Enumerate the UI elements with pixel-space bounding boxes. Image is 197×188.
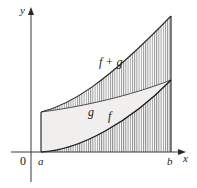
x-axis-label: x [183, 153, 188, 164]
curve-label-f: f [108, 110, 111, 122]
tick-label-a: a [38, 156, 44, 167]
origin-label: 0 [20, 155, 26, 167]
y-axis-label: y [20, 5, 25, 16]
figure-area-between-curves: y x 0 a b f + g g f [0, 0, 197, 188]
tick-label-b: b [167, 156, 173, 167]
curve-label-g: g [88, 106, 94, 118]
curve-label-f-plus-g: f + g [99, 56, 122, 68]
y-axis-arrowhead [28, 7, 34, 15]
